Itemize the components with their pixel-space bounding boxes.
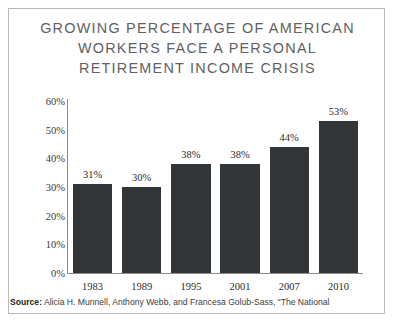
y-axis-tick-label: 0% xyxy=(13,268,65,279)
bar-group: 44% xyxy=(270,101,309,273)
x-axis-category-label: 1983 xyxy=(73,281,112,292)
bar[interactable] xyxy=(220,164,259,273)
bar-value-label: 38% xyxy=(171,149,210,160)
y-axis-tick-label: 20% xyxy=(13,210,65,221)
bar[interactable] xyxy=(319,121,358,273)
bar-value-label: 53% xyxy=(319,106,358,117)
bar-group: 53% xyxy=(319,101,358,273)
bar-value-label: 38% xyxy=(220,149,259,160)
bar-value-label: 30% xyxy=(122,172,161,183)
bar-chart: 0%10%20%30%40%50%60% 31%30%38%38%44%53% … xyxy=(9,9,386,315)
bar-group: 38% xyxy=(220,101,259,273)
bar-group: 30% xyxy=(122,101,161,273)
y-axis-tick-label: 50% xyxy=(13,124,65,135)
x-axis-category-label: 1995 xyxy=(171,281,210,292)
y-axis-tick-label: 40% xyxy=(13,153,65,164)
bar[interactable] xyxy=(73,184,112,273)
source-text: Alicia H. Munnell, Anthony Webb, and Fra… xyxy=(42,297,329,307)
bar[interactable] xyxy=(122,187,161,273)
y-axis-tick-label: 30% xyxy=(13,182,65,193)
x-axis-line xyxy=(67,273,363,274)
x-axis-category-label: 2001 xyxy=(220,281,259,292)
bar-group: 31% xyxy=(73,101,112,273)
source-label: Source: xyxy=(10,297,42,307)
bar[interactable] xyxy=(171,164,210,273)
plot-area: 31%30%38%38%44%53% xyxy=(68,101,362,273)
x-axis-category-label: 2007 xyxy=(270,281,309,292)
x-axis-category-label: 1989 xyxy=(122,281,161,292)
y-axis-tick-label: 10% xyxy=(13,239,65,250)
bar-value-label: 44% xyxy=(270,132,309,143)
bar-value-label: 31% xyxy=(73,169,112,180)
source-note: Source: Alicia H. Munnell, Anthony Webb,… xyxy=(10,297,397,308)
x-axis-category-label: 2010 xyxy=(319,281,358,292)
bar[interactable] xyxy=(270,147,309,273)
chart-panel: GROWING PERCENTAGE OF AMERICAN WORKERS F… xyxy=(8,8,385,314)
bar-group: 38% xyxy=(171,101,210,273)
y-axis-tick-labels: 0%10%20%30%40%50%60% xyxy=(9,9,65,315)
y-axis-tick-label: 60% xyxy=(13,96,65,107)
